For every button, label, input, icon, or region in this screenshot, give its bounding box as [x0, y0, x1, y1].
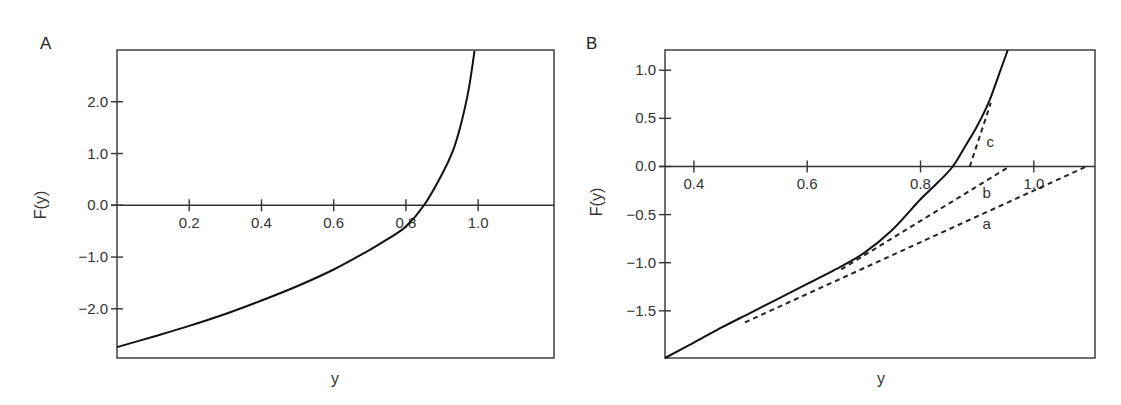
series-label-c: c [986, 133, 994, 150]
y-tick-label: 1.0 [635, 61, 656, 78]
y-tick-label: 2.0 [87, 93, 108, 110]
y-tick-label: −1.0 [626, 254, 656, 271]
panel-a-x-axis: 0.20.40.60.81.0 [111, 199, 554, 231]
panel-b-y-axis-label: F(y) [588, 188, 605, 216]
panel-b-label: B [586, 34, 597, 53]
panel-a: A 0.20.40.60.81.0 2.01.00.0−1.0−2.0 y F(… [32, 34, 554, 387]
panel-a-series [117, 51, 475, 347]
series-label-a: a [983, 215, 992, 232]
x-tick-label: 1.0 [468, 214, 489, 231]
y-tick-label: 0.0 [87, 196, 108, 213]
panel-b-x-axis: 0.40.60.81.0 [659, 160, 1095, 192]
y-tick-label: 1.0 [87, 145, 108, 162]
x-tick-label: 0.6 [323, 214, 344, 231]
y-tick-label: −1.5 [626, 302, 656, 319]
figure: A 0.20.40.60.81.0 2.01.00.0−1.0−2.0 y F(… [0, 0, 1121, 405]
series-line-fy [117, 51, 475, 347]
x-tick-label: 0.6 [797, 175, 818, 192]
y-tick-label: −2.0 [78, 300, 108, 317]
x-tick-label: 0.8 [910, 175, 931, 192]
panel-b: B 0.40.60.81.0 1.00.50.0−0.5−1.0−1.5 abc… [586, 34, 1095, 387]
panel-a-y-axis-label: F(y) [32, 191, 49, 219]
y-tick-label: −1.0 [78, 248, 108, 265]
x-tick-label: 0.2 [179, 214, 200, 231]
y-tick-label: 0.0 [635, 157, 656, 174]
panel-a-x-axis-label: y [331, 370, 339, 387]
panel-b-plot-frame [665, 50, 1095, 358]
series-label-b: b [983, 184, 991, 201]
y-tick-label: −0.5 [626, 206, 656, 223]
panel-b-x-axis-label: y [877, 370, 885, 387]
x-tick-label: 0.4 [683, 175, 704, 192]
series-line-fy [665, 50, 1008, 358]
x-tick-label: 0.4 [251, 214, 272, 231]
x-tick-label: 0.8 [395, 214, 416, 231]
panel-a-plot-frame [117, 50, 554, 358]
panel-b-series: abc [665, 50, 1087, 358]
panel-a-label: A [40, 34, 52, 53]
y-tick-label: 0.5 [635, 109, 656, 126]
